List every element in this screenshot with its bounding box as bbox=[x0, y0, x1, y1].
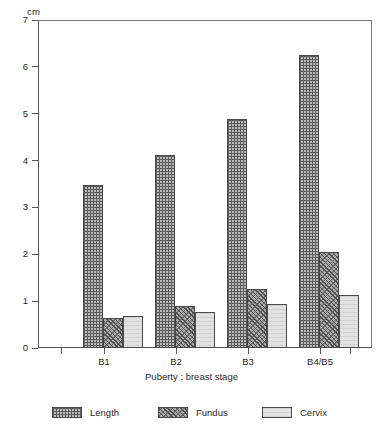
bar-fundus-b2 bbox=[175, 306, 195, 348]
legend-swatch-length bbox=[52, 407, 82, 418]
y-tick-mark bbox=[32, 254, 38, 255]
chart-legend: LengthFundusCervix bbox=[0, 405, 383, 425]
y-tick-label: 6 bbox=[0, 61, 28, 72]
y-tick-label: 7 bbox=[0, 14, 28, 25]
bar-length-b2 bbox=[155, 155, 175, 348]
x-tick-mark bbox=[320, 348, 321, 354]
y-tick-mark bbox=[32, 301, 38, 302]
legend-swatch-cervix bbox=[262, 407, 292, 418]
y-tick-label: 5 bbox=[0, 108, 28, 119]
bar-group bbox=[299, 20, 361, 348]
y-tick-label: 4 bbox=[0, 155, 28, 166]
bar-group bbox=[83, 20, 145, 348]
legend-label: Length bbox=[90, 407, 119, 418]
x-tick-label: B2 bbox=[170, 356, 182, 367]
y-tick-mark bbox=[32, 348, 38, 349]
x-tick-label: B4/B5 bbox=[307, 356, 333, 367]
y-tick-label: 0 bbox=[0, 342, 28, 353]
y-tick-mark bbox=[32, 113, 38, 114]
bar-cervix-b1 bbox=[123, 316, 143, 348]
y-tick-mark bbox=[32, 66, 38, 67]
x-tick-label: B3 bbox=[242, 356, 254, 367]
x-tick-mark bbox=[176, 348, 177, 354]
bar-cervix-b2 bbox=[195, 312, 215, 348]
bar-cervix-b3 bbox=[267, 304, 287, 349]
x-tick-mark bbox=[104, 348, 105, 354]
y-tick-label: 3 bbox=[0, 201, 28, 212]
legend-item-fundus: Fundus bbox=[158, 405, 228, 419]
legend-label: Cervix bbox=[300, 407, 327, 418]
x-tick-label: B1 bbox=[98, 356, 110, 367]
legend-item-length: Length bbox=[52, 405, 119, 419]
y-tick-mark bbox=[32, 207, 38, 208]
bar-length-b1 bbox=[83, 185, 103, 348]
x-tick-mark bbox=[248, 348, 249, 354]
y-tick-label: 2 bbox=[0, 248, 28, 259]
bar-length-b3 bbox=[227, 119, 247, 348]
legend-item-cervix: Cervix bbox=[262, 405, 327, 419]
x-axis-title: Puberty : breast stage bbox=[0, 371, 383, 382]
bar-length-b4-b5 bbox=[299, 55, 319, 348]
y-tick-mark bbox=[32, 20, 38, 21]
bar-chart: cm 01234567 B1B2B3B4/B5 Puberty : breast… bbox=[0, 0, 383, 432]
y-tick-label: 1 bbox=[0, 295, 28, 306]
legend-swatch-fundus bbox=[158, 407, 188, 418]
x-tick-mark bbox=[61, 348, 62, 354]
y-axis-unit-label: cm bbox=[27, 6, 40, 17]
x-tick-mark bbox=[350, 348, 351, 354]
bar-group bbox=[227, 20, 289, 348]
bar-fundus-b3 bbox=[247, 289, 267, 348]
bar-fundus-b4-b5 bbox=[319, 252, 339, 348]
y-tick-mark bbox=[32, 160, 38, 161]
bar-group bbox=[155, 20, 217, 348]
plot-area bbox=[39, 20, 371, 348]
bar-fundus-b1 bbox=[103, 318, 123, 348]
legend-label: Fundus bbox=[196, 407, 228, 418]
bar-cervix-b4-b5 bbox=[339, 295, 359, 348]
